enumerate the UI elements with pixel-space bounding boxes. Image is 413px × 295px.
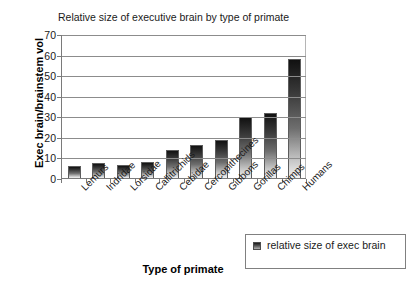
legend-label: relative size of exec brain <box>267 239 402 252</box>
legend-swatch-icon <box>253 242 261 250</box>
x-tick-label: Humans <box>300 185 308 193</box>
x-tick-label: Cercopithecines <box>202 185 210 193</box>
legend: relative size of exec brain <box>245 234 406 269</box>
x-tick-label: Lorsidae <box>128 185 136 193</box>
x-tick-label: Lemurs <box>79 185 87 193</box>
bar-chart: Relative size of executive brain by type… <box>0 0 413 295</box>
x-tick-label: Gibbons <box>226 185 234 193</box>
x-tick-label: Cebidae <box>177 185 185 193</box>
x-tick-label: Callitrichids <box>153 185 161 193</box>
x-tick-label: Gorillas <box>251 185 259 193</box>
x-tick-label: Indridae <box>104 185 112 193</box>
x-tick-label: Chimps <box>275 185 283 193</box>
